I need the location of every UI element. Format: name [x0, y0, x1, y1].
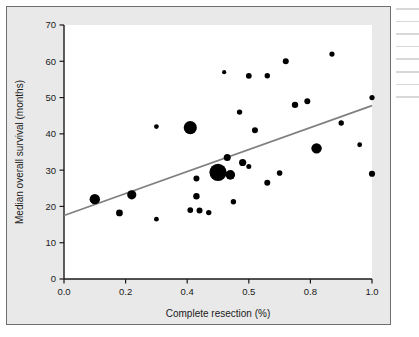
data-point: [206, 210, 211, 215]
y-axis-tick-label: 40: [45, 128, 56, 139]
y-axis-tick-label: 0: [51, 273, 56, 284]
figure-page: 0102030405060700.00.20.40.50.81.0Complet…: [0, 0, 419, 337]
data-point: [264, 180, 270, 186]
margin-text-line: [396, 33, 419, 35]
data-point: [283, 58, 289, 64]
data-point: [239, 159, 246, 166]
data-point: [357, 142, 362, 147]
data-point: [154, 217, 159, 222]
data-point: [184, 121, 197, 134]
data-point: [237, 109, 242, 114]
data-point: [252, 127, 258, 133]
data-point: [127, 190, 136, 199]
data-point: [311, 143, 321, 153]
margin-text-line: [396, 71, 419, 73]
y-axis-tick-label: 70: [45, 19, 56, 30]
figure-panel: 0102030405060700.00.20.40.50.81.0Complet…: [6, 6, 391, 325]
x-axis-tick-label: 1.0: [365, 286, 378, 297]
regression-trendline: [64, 106, 372, 216]
data-point: [193, 193, 199, 199]
data-point: [329, 51, 334, 56]
page-margin-text-column: [396, 8, 419, 140]
x-axis-tick-label: 0.4: [181, 286, 194, 297]
y-axis-tick-label: 20: [45, 201, 56, 212]
y-axis-tick-label: 60: [45, 56, 56, 67]
x-axis-tick-label: 0.2: [119, 286, 132, 297]
margin-text-line: [396, 58, 419, 60]
data-point: [246, 73, 252, 79]
margin-text-line: [396, 96, 419, 98]
data-point: [116, 210, 123, 217]
margin-text-line: [396, 84, 419, 86]
y-axis-tick-label: 10: [45, 237, 56, 248]
data-point: [154, 124, 159, 129]
data-point: [304, 98, 310, 104]
data-point: [193, 175, 199, 181]
y-axis-tick-label: 50: [45, 92, 56, 103]
data-point: [209, 164, 226, 181]
margin-text-line: [396, 8, 419, 10]
x-axis-tick-label: 0.8: [304, 286, 317, 297]
data-point: [277, 170, 283, 176]
data-point: [292, 102, 298, 108]
data-point-group: [90, 51, 376, 221]
data-point: [90, 194, 100, 204]
margin-text-line: [396, 21, 419, 23]
y-axis-title: Median overall survival (months): [14, 80, 25, 224]
data-point: [246, 164, 251, 169]
data-point: [222, 70, 226, 74]
data-point: [187, 207, 193, 213]
data-point: [224, 154, 231, 161]
x-axis-tick-label: 0.5: [242, 286, 255, 297]
x-axis-title: Complete resection (%): [166, 308, 270, 319]
data-point: [339, 120, 344, 125]
y-axis-tick-label: 30: [45, 165, 56, 176]
data-point: [369, 95, 374, 100]
margin-text-line: [396, 46, 419, 48]
x-axis-tick-label: 0.0: [57, 286, 70, 297]
data-point: [226, 170, 236, 180]
data-point: [197, 207, 203, 213]
data-point: [265, 73, 270, 78]
data-point: [369, 171, 375, 177]
scatter-plot: 0102030405060700.00.20.40.50.81.0Complet…: [7, 7, 392, 326]
data-point: [231, 199, 236, 204]
